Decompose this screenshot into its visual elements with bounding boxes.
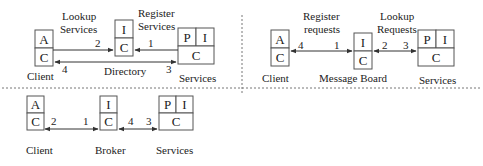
register-services-label-1: Register — [138, 7, 175, 19]
services-label: Services — [419, 74, 456, 86]
step-2: 2 — [95, 37, 101, 49]
client-c-cell: C — [40, 50, 49, 65]
directory-client-box: A C — [35, 30, 53, 66]
broker-box: I C — [100, 96, 117, 130]
message-board-box: I C — [354, 33, 372, 69]
message-board-panel: A C Client I C Message Board P I C Servi… — [262, 10, 456, 86]
services-c-cell: C — [172, 114, 181, 129]
services-c-cell: C — [192, 48, 201, 63]
client-a-cell: A — [39, 32, 49, 47]
step-2: 2 — [51, 115, 57, 127]
step-1: 1 — [83, 115, 89, 127]
client-c-cell: C — [31, 114, 40, 129]
client-a-cell: A — [31, 97, 41, 112]
client-a-cell: A — [275, 32, 285, 47]
services-c-cell: C — [432, 50, 441, 65]
step-1: 1 — [334, 39, 340, 51]
broker-panel: A C Client I C Broker P I C Services 2 1… — [26, 96, 193, 156]
services-i-cell: I — [182, 97, 186, 112]
step-3: 3 — [166, 63, 172, 75]
mb-client-box: A C — [271, 30, 289, 66]
broker-label: Broker — [95, 144, 126, 156]
client-label: Client — [27, 70, 54, 82]
services-i-cell: I — [443, 32, 447, 47]
lookup-services-label-1: Lookup — [62, 10, 97, 22]
services-p-cell: P — [183, 30, 190, 45]
mb-i-cell: I — [361, 35, 365, 50]
client-label: Client — [26, 144, 53, 156]
architecture-diagram: A C Client I C Directory P I C Services … — [0, 0, 483, 166]
services-label: Services — [179, 72, 216, 84]
step-4: 4 — [298, 39, 304, 51]
message-board-label: Message Board — [319, 72, 388, 84]
broker-i-cell: I — [106, 97, 110, 112]
directory-i-cell: I — [122, 22, 126, 37]
register-requests-label-1: Register — [303, 10, 340, 22]
services-p-cell: P — [423, 32, 430, 47]
broker-services-box: P I C — [159, 96, 193, 130]
step-3: 3 — [403, 39, 409, 51]
register-services-label-2: Services — [138, 20, 175, 32]
directory-label: Directory — [104, 65, 147, 77]
services-p-cell: P — [164, 97, 171, 112]
directory-c-cell: C — [120, 40, 129, 55]
services-i-cell: I — [203, 30, 207, 45]
broker-c-cell: C — [104, 114, 113, 129]
directory-panel: A C Client I C Directory P I C Services … — [27, 7, 216, 84]
lookup-requests-label-2: Requests — [377, 23, 417, 35]
register-requests-label-2: requests — [304, 23, 340, 35]
lookup-services-label-2: Services — [60, 23, 97, 35]
step-2: 2 — [382, 39, 388, 51]
broker-client-box: A C — [27, 96, 44, 130]
step-4: 4 — [62, 63, 68, 75]
step-1: 1 — [148, 37, 154, 49]
lookup-requests-label-1: Lookup — [380, 10, 415, 22]
directory-box: I C — [115, 20, 133, 56]
services-label: Services — [156, 144, 193, 156]
mb-c-cell: C — [359, 53, 368, 68]
client-label: Client — [262, 72, 289, 84]
directory-services-box: P I C — [178, 28, 214, 64]
client-c-cell: C — [276, 50, 285, 65]
mb-services-box: P I C — [418, 30, 454, 66]
step-3: 3 — [146, 115, 152, 127]
step-4: 4 — [128, 115, 134, 127]
